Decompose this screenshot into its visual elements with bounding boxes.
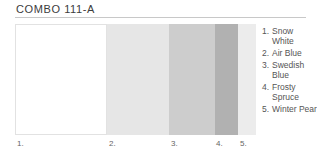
legend-number: 2. <box>262 48 272 58</box>
legend-number: 4. <box>262 82 272 102</box>
swatch-label-2: 2. <box>109 139 116 148</box>
legend-label: Swedish Blue <box>272 60 317 80</box>
legend-number: 5. <box>262 104 272 114</box>
swatch-swedish-blue <box>169 24 215 135</box>
combo-title: COMBO 111-A <box>16 3 95 15</box>
legend-item: 5. Winter Pear <box>262 104 317 114</box>
legend-item: 4. Frosty Spruce <box>262 82 317 102</box>
swatch-label-1: 1. <box>17 139 24 148</box>
swatch-label-3: 3. <box>171 139 178 148</box>
legend-number: 1. <box>262 26 272 46</box>
legend-label: Winter Pear <box>272 104 317 114</box>
color-strip <box>15 24 256 135</box>
swatch-frosty-spruce <box>215 24 238 135</box>
color-legend: 1. Snow White 2. Air Blue 3. Swedish Blu… <box>262 26 317 116</box>
legend-label: Snow White <box>272 26 317 46</box>
title-divider <box>15 17 306 18</box>
swatch-label-4: 4. <box>216 139 223 148</box>
legend-item: 2. Air Blue <box>262 48 317 58</box>
swatch-winter-pear <box>238 24 256 135</box>
legend-item: 1. Snow White <box>262 26 317 46</box>
swatch-snow-white <box>15 24 107 135</box>
swatch-label-5: 5. <box>240 139 247 148</box>
swatch-air-blue <box>107 24 169 135</box>
legend-item: 3. Swedish Blue <box>262 60 317 80</box>
legend-label: Air Blue <box>272 48 317 58</box>
legend-number: 3. <box>262 60 272 80</box>
legend-label: Frosty Spruce <box>272 82 317 102</box>
